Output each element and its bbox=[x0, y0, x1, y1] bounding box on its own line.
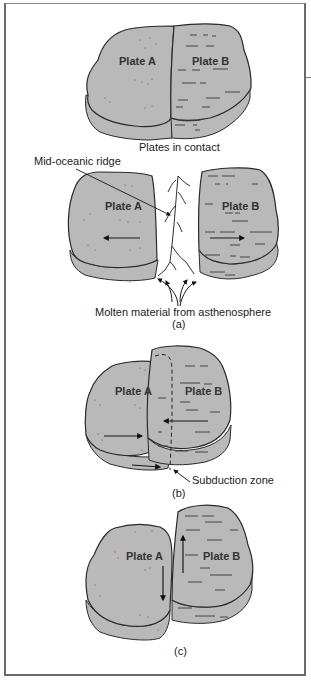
plate-a-label-a: Plate A bbox=[105, 200, 142, 212]
tectonic-plates-diagram bbox=[0, 0, 311, 682]
molten-material-label: Molten material from asthenosphere bbox=[95, 306, 271, 318]
plate-b-label-b: Plate B bbox=[185, 385, 222, 397]
mid-oceanic-ridge-label: Mid-oceanic ridge bbox=[34, 155, 121, 167]
plate-a-label-b: Plate A bbox=[115, 385, 152, 397]
plate-a-label-c: Plate A bbox=[126, 550, 163, 562]
panel-b-convergent bbox=[85, 346, 231, 482]
plate-b-label-c: Plate B bbox=[203, 550, 240, 562]
subduction-zone-label: Subduction zone bbox=[192, 474, 274, 486]
plate-b-label-a: Plate B bbox=[222, 200, 259, 212]
caption-b: (b) bbox=[172, 487, 185, 499]
caption-plates-in-contact: Plates in contact bbox=[139, 141, 220, 153]
caption-c: (c) bbox=[174, 645, 187, 657]
caption-a: (a) bbox=[172, 318, 185, 330]
plate-a-label-contact: Plate A bbox=[119, 55, 156, 67]
plate-b-label-contact: Plate B bbox=[192, 55, 229, 67]
panel-plates-in-contact bbox=[86, 24, 252, 140]
panel-a-divergent bbox=[68, 168, 278, 306]
panel-c-transform bbox=[86, 505, 253, 640]
